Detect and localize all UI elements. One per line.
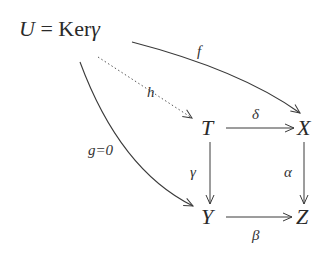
label-beta: β [252, 228, 259, 243]
node-U-ker-arg: γ [91, 16, 100, 41]
node-U-equals: = [40, 16, 52, 41]
node-U-symbol: U [19, 16, 35, 41]
node-Y: Y [201, 206, 213, 228]
label-alpha: α [284, 165, 292, 180]
arrow-g [80, 62, 193, 206]
node-U-ker: Ker [58, 16, 91, 41]
label-delta: δ [252, 107, 259, 122]
arrow-h [98, 57, 192, 118]
node-U: U = Kerγ [19, 18, 100, 40]
node-X: X [297, 117, 310, 139]
node-Z: Z [296, 206, 308, 228]
arrow-f [132, 42, 300, 113]
label-g: g=0 [88, 143, 113, 158]
node-T: T [201, 117, 213, 139]
label-f: f [197, 44, 201, 59]
label-h: h [147, 85, 155, 100]
label-gamma: γ [190, 165, 196, 180]
